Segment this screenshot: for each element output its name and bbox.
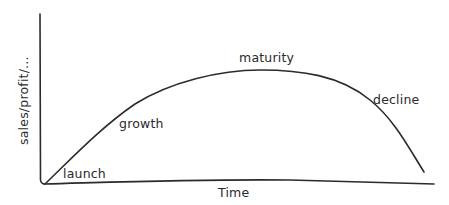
growth-label: growth <box>119 116 164 131</box>
launch-label: launch <box>63 166 106 181</box>
product-life-cycle-chart: launch growth maturity decline Time sale… <box>0 0 449 205</box>
y-axis-label: sales/profit/... <box>16 56 31 145</box>
y-axis <box>40 14 45 184</box>
chart-svg: launch growth maturity decline Time sale… <box>0 0 449 205</box>
maturity-label: maturity <box>239 50 295 65</box>
x-axis-label: Time <box>217 185 250 200</box>
decline-label: decline <box>373 92 420 107</box>
